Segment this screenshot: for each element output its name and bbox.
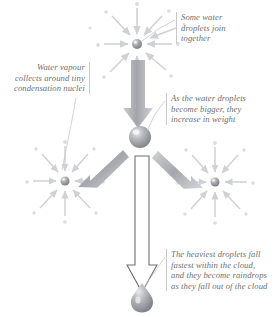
annotation-increase-in-weight: As the water droplets become bigger, the…	[166, 93, 246, 125]
arrow-raindrop-falls-out	[127, 156, 157, 292]
droplet-right	[211, 178, 220, 187]
leader-line-middle	[147, 101, 165, 131]
droplet-left	[61, 177, 70, 186]
annotation-water-vapour: Water vapour collects around tiny conden…	[14, 62, 90, 94]
leader-line-left	[62, 98, 76, 170]
droplet-top	[132, 39, 142, 49]
annotation-heaviest-droplets-fall: The heaviest droplets fall fastest withi…	[166, 249, 267, 291]
annotation-droplets-join: Some water droplets join together	[176, 12, 226, 44]
falling-raindrop	[131, 283, 153, 313]
arrow-droplets-descend	[123, 60, 153, 128]
diagram-canvas: Some water droplets join together Water …	[0, 0, 280, 317]
